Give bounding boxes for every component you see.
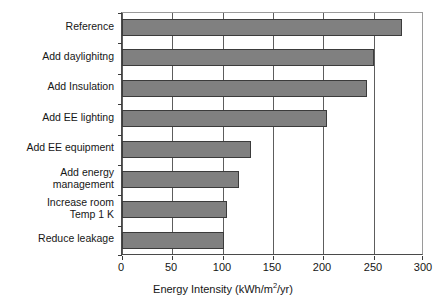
y-tick [118, 74, 122, 75]
chart-figure: Reference Add daylighitng Add Insulation… [0, 0, 446, 305]
x-tick-label-0: 0 [101, 261, 141, 274]
bar-add-ee-lighting [122, 110, 327, 127]
bar-add-energy-management [122, 171, 239, 188]
y-tick [118, 226, 122, 227]
bar-row [122, 135, 422, 165]
y-axis-label-increase-room-temp: Increase room Temp 1 K [0, 196, 114, 220]
y-tick [118, 104, 122, 105]
bar-row [122, 165, 422, 195]
y-tick [118, 13, 122, 14]
x-tick-label-100: 100 [202, 261, 242, 274]
x-tick [273, 256, 274, 260]
x-tick-label-50: 50 [151, 261, 191, 274]
x-axis-title-pre: Energy Intensity (kWh/m [153, 283, 273, 295]
bar-add-ee-equipment [122, 141, 251, 158]
bar-reduce-leakage [122, 232, 224, 249]
x-tick-label-250: 250 [353, 261, 393, 274]
x-tick [122, 256, 123, 260]
bar-row [122, 13, 422, 43]
y-axis-label-add-ee-equipment: Add EE equipment [0, 141, 114, 153]
x-tick [323, 256, 324, 260]
y-axis-label-add-insulation: Add Insulation [0, 80, 114, 92]
x-tick [172, 256, 173, 260]
y-axis-label-add-energy-management: Add energy management [0, 166, 114, 190]
y-axis-label-add-ee-lighting: Add EE lighting [0, 111, 114, 123]
x-tick-label-150: 150 [252, 261, 292, 274]
bar-add-daylighting [122, 49, 374, 66]
y-axis-label-add-daylighting: Add daylighitng [0, 50, 114, 62]
bar-add-insulation [122, 80, 367, 97]
bar-increase-room-temp [122, 201, 227, 218]
gridline-300 [422, 13, 423, 254]
bar-row [122, 43, 422, 73]
y-axis-label-reference: Reference [0, 20, 114, 32]
bar-row [122, 226, 422, 256]
plot-area [121, 12, 423, 255]
bar-row [122, 74, 422, 104]
bar-reference [122, 19, 402, 36]
y-tick [118, 43, 122, 44]
bar-row [122, 195, 422, 225]
y-axis-label-reduce-leakage: Reduce leakage [0, 232, 114, 244]
y-tick [118, 135, 122, 136]
y-tick [118, 165, 122, 166]
x-axis-title-post: /yr) [277, 283, 293, 295]
x-tick-label-200: 200 [302, 261, 342, 274]
x-tick [223, 256, 224, 260]
x-tick [422, 256, 423, 260]
x-tick [374, 256, 375, 260]
bar-row [122, 104, 422, 134]
y-tick [118, 195, 122, 196]
x-tick-label-300: 300 [403, 261, 443, 274]
x-axis-title: Energy Intensity (kWh/m2/yr) [0, 283, 446, 295]
